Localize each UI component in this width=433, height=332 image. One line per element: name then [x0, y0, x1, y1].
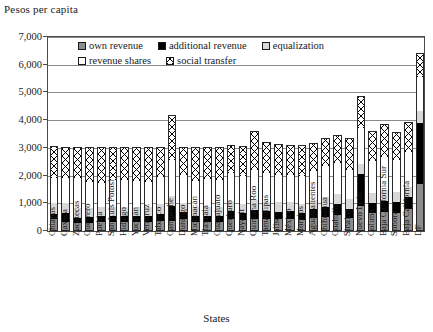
x-tick-label: Baja California — [401, 181, 411, 236]
additional-revenue-swatch — [158, 42, 166, 50]
bar-segment-social-transfer — [239, 146, 248, 176]
bar-segment-social-transfer — [345, 138, 354, 170]
y-tick-mark — [43, 147, 47, 148]
bar-segment-revenue-shares — [239, 176, 248, 204]
x-tick-label: Tabasco — [153, 207, 163, 236]
equalization-swatch — [262, 42, 270, 50]
social-transfer-swatch — [166, 57, 174, 65]
x-tick-label: Durango — [177, 205, 187, 237]
legend-label: social transfer — [177, 55, 236, 66]
x-tick-label: Tamaulipas — [260, 195, 270, 236]
x-tick-label: DF — [413, 224, 423, 236]
bar-segment-revenue-shares — [368, 161, 377, 193]
x-tick-label: Hidalgo — [118, 207, 128, 236]
x-tick-label: Nayarit — [236, 209, 246, 236]
bar-segment-revenue-shares — [61, 178, 70, 203]
bar-df[interactable] — [416, 53, 425, 231]
y-tick-label: 5,000 — [0, 86, 42, 97]
y-tick-label: 0 — [0, 225, 42, 236]
bar-segment-revenue-shares — [168, 160, 177, 196]
bar-segment-social-transfer — [380, 124, 389, 157]
bar-segment-equalization — [368, 193, 377, 204]
x-tick-label: Chihuahua — [319, 197, 329, 236]
x-tick-label: Colima — [366, 210, 376, 237]
revenue-shares-swatch — [78, 57, 86, 65]
bar-segment-social-transfer — [109, 147, 118, 180]
y-tick-mark — [43, 202, 47, 203]
y-tick-mark — [43, 119, 47, 120]
x-tick-label: México — [283, 209, 293, 237]
bar-segment-social-transfer — [179, 147, 188, 175]
y-tick-mark — [43, 175, 47, 176]
y-tick-label: 3,000 — [0, 141, 42, 152]
x-tick-label: Baja California Sur — [378, 166, 388, 236]
bar-segment-social-transfer — [144, 147, 153, 182]
bar-segment-revenue-shares — [156, 177, 165, 205]
legend-item[interactable]: social transfer — [166, 55, 236, 66]
x-tick-label: Querétaro — [224, 200, 234, 236]
x-tick-label: San Luis Potosí — [106, 179, 116, 236]
x-tick-label: Sinaloa — [342, 209, 352, 236]
bar-segment-equalization — [416, 111, 425, 123]
x-tick-label: Campeche — [165, 198, 175, 236]
bar-segment-equalization — [392, 192, 401, 202]
bar-segment-social-transfer — [215, 147, 224, 180]
y-axis-title: Pesos per capita — [4, 3, 78, 15]
x-tick-label: Nuevo León — [354, 191, 364, 236]
legend-row: own revenueadditional revenueequalizatio… — [78, 40, 408, 51]
bar-segment-social-transfer — [73, 147, 82, 178]
x-tick-label: Chiapas — [47, 207, 57, 236]
legend-row: revenue sharessocial transfer — [78, 55, 408, 66]
legend-label: own revenue — [89, 40, 143, 51]
legend-label: additional revenue — [169, 40, 247, 51]
bar-segment-social-transfer — [333, 135, 342, 162]
legend-item[interactable]: own revenue — [78, 40, 143, 51]
bar-segment-revenue-shares — [132, 181, 141, 207]
bar-segment-social-transfer — [168, 115, 177, 160]
bar-segment-revenue-shares — [179, 175, 188, 203]
bar-segment-social-transfer — [368, 131, 377, 161]
bar-segment-revenue-shares — [203, 179, 212, 207]
bar-segment-social-transfer — [156, 147, 165, 177]
legend-label: revenue shares — [89, 55, 151, 66]
bar-segment-social-transfer — [97, 147, 106, 182]
legend-item[interactable]: additional revenue — [158, 40, 247, 51]
chart-figure: Pesos per capita 01,0002,0003,0004,0005,… — [0, 0, 433, 332]
x-tick-label: Aguascalientes — [307, 182, 317, 236]
x-tick-label: Sonora — [389, 211, 399, 237]
x-tick-label: Coahuila — [330, 204, 340, 237]
bar-segment-equalization — [345, 199, 354, 208]
x-tick-label: Michoacán — [189, 196, 199, 236]
bar-segment-social-transfer — [203, 147, 212, 179]
bar-segment-revenue-shares — [286, 175, 295, 202]
legend-item[interactable]: revenue shares — [78, 55, 151, 66]
bar-segment-revenue-shares — [416, 77, 425, 112]
bar-segment-social-transfer — [250, 131, 259, 170]
bar-segment-social-transfer — [227, 145, 236, 173]
x-tick-label: Yucatán — [130, 207, 140, 236]
own-revenue-swatch — [78, 42, 86, 50]
bar-segment-revenue-shares — [274, 175, 283, 203]
bar-segment-social-transfer — [274, 144, 283, 175]
bar-segment-social-transfer — [416, 53, 425, 77]
y-tick-label: 2,000 — [0, 169, 42, 180]
x-tick-label: Zacatecas — [71, 201, 81, 236]
bar-segment-social-transfer — [392, 132, 401, 160]
bar-segment-revenue-shares — [357, 128, 366, 164]
bar-segment-revenue-shares — [333, 163, 342, 195]
x-tick-label: Puebla — [94, 212, 104, 237]
y-tick-mark — [43, 64, 47, 65]
y-tick-label: 7,000 — [0, 31, 42, 42]
y-tick-mark — [43, 91, 47, 92]
bar-segment-social-transfer — [50, 146, 59, 179]
legend-item[interactable]: equalization — [262, 40, 324, 51]
bar-segment-social-transfer — [321, 138, 330, 166]
x-axis-title: States — [0, 312, 433, 324]
bar-segment-additional-revenue — [416, 123, 425, 184]
bar-segment-social-transfer — [61, 147, 70, 178]
bar-segment-social-transfer — [85, 147, 94, 182]
bar-segment-revenue-shares — [345, 170, 354, 199]
x-tick-label: Quintana Roo — [248, 186, 258, 236]
x-tick-label: Tlaxcala — [200, 205, 210, 236]
bar-segment-social-transfer — [262, 142, 271, 172]
